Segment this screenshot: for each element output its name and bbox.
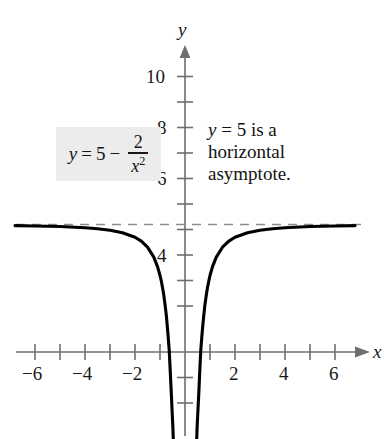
- curve-left-branch: [15, 226, 173, 439]
- asymptote-note-variable: y: [208, 119, 216, 140]
- equation-label-box: y = 5 − 2 x2: [56, 127, 161, 181]
- x-axis: [16, 347, 370, 358]
- asymptote-note-line-1: y = 5 is a: [208, 119, 291, 141]
- x-tick-label-minus6: −6: [22, 363, 42, 385]
- equation-fraction: 2 x2: [128, 133, 148, 175]
- x-tick-label-2: 2: [229, 363, 239, 385]
- denominator-exponent: 2: [139, 154, 145, 168]
- fraction-denominator: x2: [128, 154, 148, 175]
- plot-canvas: [0, 0, 384, 439]
- x-tick-label-4: 4: [279, 363, 289, 385]
- graph-figure: y x 10 8 6 4 −6 −4 −2 2 4 6 y = 5 − 2 x2…: [0, 0, 384, 439]
- y-tick-label-10: 10: [146, 66, 165, 88]
- equation-minus: −: [109, 143, 120, 165]
- denominator-base: x: [131, 156, 139, 176]
- equation-lhs: y: [69, 143, 77, 165]
- x-tick-label-6: 6: [329, 363, 339, 385]
- fraction-numerator: 2: [131, 133, 146, 152]
- y-axis-label: y: [178, 19, 186, 41]
- x-tick-label-minus2: −2: [122, 363, 142, 385]
- y-tick-label-4: 4: [157, 245, 167, 267]
- x-axis-label: x: [373, 341, 381, 363]
- asymptote-note-line-3: asymptote.: [208, 163, 291, 185]
- asymptote-note: y = 5 is a horizontal asymptote.: [208, 119, 291, 186]
- curve-right-branch: [197, 226, 355, 439]
- equation-expression: y = 5 − 2 x2: [69, 133, 149, 175]
- asymptote-note-line-1-rest: = 5 is a: [221, 119, 277, 140]
- equation-constant: 5: [96, 143, 106, 165]
- equation-equals: =: [81, 143, 92, 165]
- asymptote-note-line-2: horizontal: [208, 141, 291, 163]
- x-tick-label-minus4: −4: [72, 363, 92, 385]
